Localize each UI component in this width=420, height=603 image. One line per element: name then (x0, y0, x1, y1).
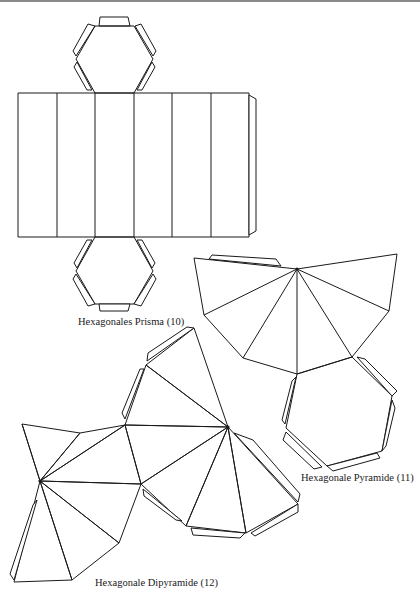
pyramid-net (194, 254, 397, 471)
prism-side-flap (249, 95, 256, 235)
dipyramid-tri-a2 (40, 425, 141, 484)
dipyramid-flap-b1 (143, 489, 182, 521)
dipyramid-flap-left (10, 500, 37, 580)
caption-prism: Hexagonales Prisma (10) (78, 316, 184, 327)
dipyramid-edge (22, 424, 40, 481)
prism-net (18, 17, 256, 311)
prism-bottom-flap-lr (134, 274, 156, 306)
pyramid-base-flap-3 (327, 453, 380, 471)
prism-bottom-flap-ll (73, 274, 95, 306)
pyramid-base-flap-2 (382, 400, 395, 451)
dipyramid-tri-a5 (14, 481, 72, 582)
pyramid-base-flap-1 (357, 357, 397, 396)
prism-top-flap-ll (74, 62, 92, 90)
pyramid-apex (295, 267, 298, 270)
prism-bottom-flap-bottom (99, 304, 130, 311)
dipyramid-apex-left (38, 479, 41, 482)
dipyramid-tri-b2 (146, 328, 228, 427)
dipyramid-flap-b3 (251, 504, 298, 536)
pyramid-base-flap-5 (282, 377, 296, 424)
nets-drawing (0, 0, 420, 603)
dipyramid-flap-top-2 (122, 369, 144, 419)
dipyramid-apex-right (226, 425, 229, 428)
prism-top-flap-lr (137, 62, 155, 90)
dipyramid-tri-a3 (40, 481, 141, 543)
caption-dipyramid: Hexagonale Dipyramide (12) (95, 577, 218, 588)
dipyramid-tri-b3 (125, 425, 228, 484)
prism-bottom-flap-ur (137, 240, 155, 268)
pyramid-base-flap-4 (283, 432, 322, 469)
prism-top-flap-ur (135, 24, 156, 56)
pyramid-edge-5 (297, 269, 389, 311)
prism-top-flap-top (99, 17, 130, 26)
dipyramid-tri-b4 (141, 427, 228, 526)
dipyramid-flap-top-1 (147, 327, 194, 361)
prism-bottom-flap-ul (74, 240, 92, 268)
dipyramid-tri-a4 (40, 481, 119, 580)
caption-pyramid: Hexagonale Pyramide (11) (301, 472, 414, 483)
prism-top-flap-ul (73, 24, 95, 56)
pyramid-edge-4 (297, 269, 352, 357)
dipyramid-net (10, 327, 300, 582)
